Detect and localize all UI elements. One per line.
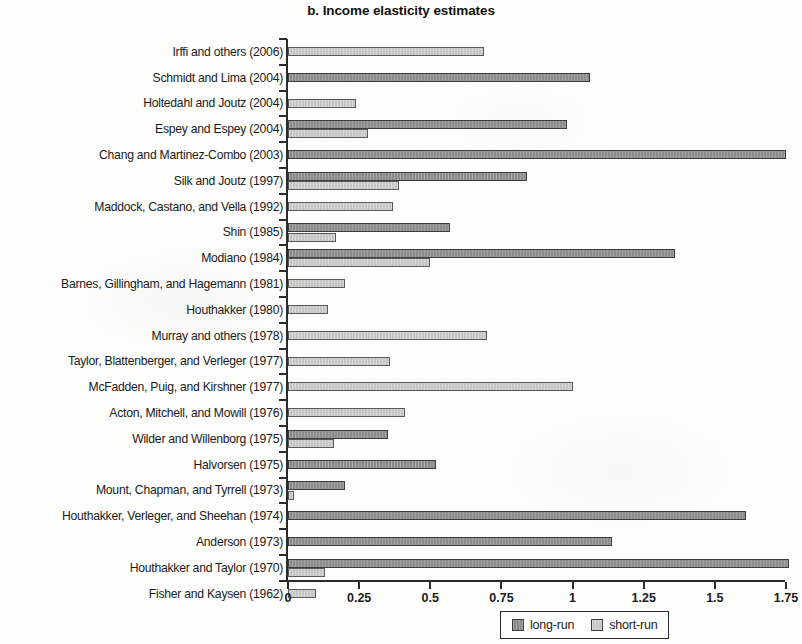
category-label: Anderson (1973) [196, 535, 283, 549]
bar-long-run [288, 150, 786, 159]
category-tick [279, 399, 287, 401]
chart-category-row: Houthakker, Verleger, and Sheehan (1974) [0, 503, 802, 529]
chart-category-row: Houthakker (1980) [0, 297, 802, 323]
bar-short-run [288, 279, 345, 288]
category-label: Irffi and others (2006) [172, 45, 283, 59]
legend-item-long-run[interactable]: long-run [512, 618, 574, 632]
x-axis-tick [287, 582, 289, 589]
bar-long-run [288, 511, 746, 520]
category-label: Houthakker (1980) [186, 303, 283, 317]
category-tick [279, 348, 287, 350]
chart-category-row: Shin (1985) [0, 220, 802, 246]
legend-swatch-short-run-icon [591, 619, 603, 631]
category-label: Modiano (1984) [201, 251, 283, 265]
category-tick [279, 115, 287, 117]
legend-swatch-long-run-icon [512, 619, 524, 631]
category-label: Barnes, Gillingham, and Hagemann (1981) [61, 277, 283, 291]
x-axis-tick [572, 582, 574, 589]
legend-item-short-run[interactable]: short-run [591, 618, 657, 632]
chart-category-row: Fisher and Kaysen (1962) [0, 581, 802, 607]
x-axis-tick-label: 0.75 [489, 591, 513, 605]
bar-short-run [288, 568, 325, 577]
bar-short-run [288, 129, 368, 138]
x-axis-tick [500, 582, 502, 589]
bar-long-run [288, 223, 450, 232]
category-label: Houthakker, Verleger, and Sheehan (1974) [62, 509, 283, 523]
bar-short-run [288, 47, 484, 56]
bar-short-run [288, 491, 294, 500]
category-tick [279, 244, 287, 246]
legend-label-long-run: long-run [530, 618, 574, 632]
bar-short-run [288, 439, 334, 448]
chart-category-row: Holtedahl and Joutz (2004) [0, 91, 802, 117]
category-label: Shin (1985) [223, 225, 283, 239]
bar-short-run [288, 589, 316, 598]
legend-label-short-run: short-run [609, 618, 657, 632]
category-label: Halvorsen (1975) [194, 458, 283, 472]
bar-short-run [288, 99, 356, 108]
x-axis-tick [714, 582, 716, 589]
bar-short-run [288, 357, 390, 366]
chart-category-row: Modiano (1984) [0, 245, 802, 271]
x-axis-tick-label: 0.5 [422, 591, 439, 605]
bar-short-run [288, 305, 328, 314]
bar-short-run [288, 408, 405, 417]
chart-category-row: Acton, Mitchell, and Mowill (1976) [0, 400, 802, 426]
bar-long-run [288, 172, 527, 181]
category-tick [279, 528, 287, 530]
category-tick [279, 425, 287, 427]
category-tick [279, 193, 287, 195]
category-label: Murray and others (1978) [151, 329, 283, 343]
chart-category-row: Irffi and others (2006) [0, 39, 802, 65]
x-axis-tick-label: 0.25 [347, 591, 371, 605]
x-axis-tick-label: 1.25 [632, 591, 656, 605]
category-label: Espey and Espey (2004) [155, 122, 283, 136]
chart-category-row: Silk and Joutz (1997) [0, 168, 802, 194]
bar-short-run [288, 181, 399, 190]
chart-category-row: Wilder and Willenborg (1975) [0, 426, 802, 452]
category-label: Taylor, Blattenberger, and Verleger (197… [68, 354, 283, 368]
chart-category-row: Barnes, Gillingham, and Hagemann (1981) [0, 271, 802, 297]
category-tick [279, 38, 287, 40]
category-tick [279, 554, 287, 556]
x-axis-tick-label: 1.5 [706, 591, 723, 605]
bar-long-run [288, 73, 590, 82]
bar-long-run [288, 559, 789, 568]
x-axis-tick [643, 582, 645, 589]
bar-long-run [288, 460, 436, 469]
bar-chart-plot: Irffi and others (2006)Schmidt and Lima … [0, 0, 802, 644]
chart-category-row: Anderson (1973) [0, 529, 802, 555]
category-label: Houthakker and Taylor (1970) [130, 561, 283, 575]
chart-legend: long-run short-run [500, 611, 669, 639]
chart-category-row: Houthakker and Taylor (1970) [0, 555, 802, 581]
category-tick [279, 64, 287, 66]
chart-category-row: McFadden, Puig, and Kirshner (1977) [0, 374, 802, 400]
category-tick [279, 502, 287, 504]
chart-category-row: Chang and Martinez-Combo (2003) [0, 142, 802, 168]
category-tick [279, 580, 287, 582]
category-tick [279, 270, 287, 272]
bar-long-run [288, 481, 345, 490]
category-tick [279, 141, 287, 143]
category-tick [279, 90, 287, 92]
bar-short-run [288, 382, 573, 391]
chart-category-row: Halvorsen (1975) [0, 452, 802, 478]
chart-category-row: Taylor, Blattenberger, and Verleger (197… [0, 349, 802, 375]
category-label: Maddock, Castano, and Vella (1992) [94, 200, 283, 214]
chart-category-row: Schmidt and Lima (2004) [0, 65, 802, 91]
bar-long-run [288, 537, 612, 546]
bar-short-run [288, 331, 487, 340]
category-label: Fisher and Kaysen (1962) [149, 587, 283, 601]
bar-short-run [288, 258, 430, 267]
x-axis-tick-label: 0 [285, 591, 292, 605]
x-axis-tick [429, 582, 431, 589]
x-axis-tick-label: 1.75 [774, 591, 798, 605]
category-label: Silk and Joutz (1997) [174, 174, 283, 188]
chart-category-row: Mount, Chapman, and Tyrrell (1973) [0, 478, 802, 504]
category-label: Mount, Chapman, and Tyrrell (1973) [96, 483, 283, 497]
bar-long-run [288, 249, 675, 258]
chart-category-row: Murray and others (1978) [0, 323, 802, 349]
bar-long-run [288, 120, 567, 129]
x-axis-tick-label: 1 [569, 591, 576, 605]
x-axis-tick [785, 582, 787, 589]
